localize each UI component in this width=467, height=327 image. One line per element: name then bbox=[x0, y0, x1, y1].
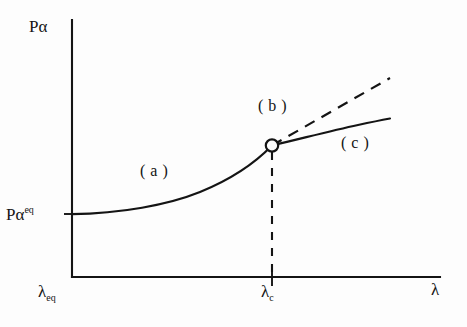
x-tick-label-subscript: eq bbox=[46, 292, 55, 303]
branch-label-b: ( b ) bbox=[258, 98, 287, 114]
curve-branch-a bbox=[72, 146, 272, 215]
y-tick-label-equilibrium: Pαeq bbox=[6, 205, 34, 223]
y-tick-label-superscript: eq bbox=[24, 204, 33, 215]
curve-branch-c bbox=[272, 119, 390, 146]
x-tick-label-critical: λc bbox=[261, 283, 274, 303]
figure-canvas: Pα Pαeq λeq λc λ ( a ) ( b ) ( c ) bbox=[0, 0, 467, 327]
critical-point-marker bbox=[266, 139, 278, 151]
x-tick-label-lambda: λ bbox=[38, 282, 46, 301]
plot-area bbox=[0, 0, 467, 327]
branch-label-c: ( c ) bbox=[341, 135, 369, 151]
curve-branch-b bbox=[272, 78, 390, 146]
y-axis-title: Pα bbox=[29, 18, 47, 35]
x-tick-critical-subscript: c bbox=[269, 292, 273, 303]
x-tick-critical-lambda: λ bbox=[261, 282, 269, 301]
branch-label-a: ( a ) bbox=[140, 163, 168, 179]
x-axis-title: λ bbox=[431, 281, 439, 298]
x-tick-label-equilibrium: λeq bbox=[38, 283, 56, 303]
y-axis-title-alpha: α bbox=[38, 17, 47, 36]
